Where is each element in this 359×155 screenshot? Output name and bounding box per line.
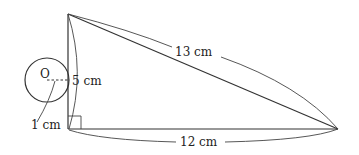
- hypotenuse-dimension-arc-right: [221, 57, 338, 129]
- base-dimension-arc-left: [69, 130, 176, 142]
- triangle: [68, 14, 338, 129]
- vertical-dimension-arc: [68, 14, 77, 129]
- center-label: O: [40, 67, 50, 81]
- vertical-side-label: 5 cm: [72, 74, 102, 88]
- side-hypotenuse: [68, 14, 338, 129]
- base-label: 12 cm: [180, 135, 218, 149]
- hypotenuse-dimension-arc-left: [68, 14, 172, 47]
- triangle-circle-diagram: O 5 cm 13 cm 12 cm 1 cm: [0, 0, 359, 155]
- base-dimension-arc-right: [225, 129, 338, 142]
- hypotenuse-label: 13 cm: [175, 45, 213, 59]
- radius-label: 1 cm: [31, 118, 61, 132]
